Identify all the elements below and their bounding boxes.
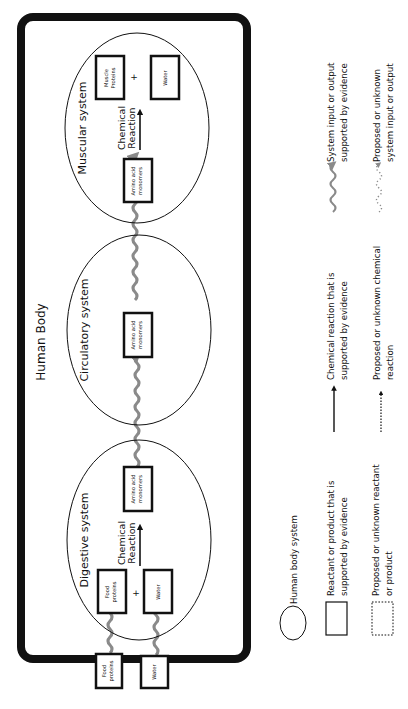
human-body-title: Human Body	[34, 303, 48, 380]
legend-dashed-arrow-label-1: Proposed or unknown chemical	[372, 246, 382, 380]
digestive-system: Digestive system Amino acid monomers Che…	[67, 440, 211, 640]
legend-solid-box-label-2: supported by evidence	[339, 497, 349, 596]
dig-food-label-1: Food	[104, 586, 110, 598]
muscle-amino-label-2: monomers	[137, 167, 143, 195]
dig-amino-label-1: Amino acid	[130, 475, 136, 504]
circulatory-system-label: Circulatory system	[78, 278, 91, 381]
muscle-reaction-label-2: Reaction	[126, 107, 137, 148]
legend-dotted-wavy-arrow-label-1: Proposed or unknown	[372, 69, 382, 162]
legend-solid-box-label-1: Reactant or product that is	[326, 480, 336, 596]
dig-plus-sign: +	[132, 588, 140, 598]
legend-solid-box-icon	[326, 602, 347, 635]
muscle-proteins-label-2: Proteins	[110, 67, 116, 88]
diagram-canvas: Human Body Muscular system Muscle Protei…	[0, 0, 408, 709]
dig-water-label: Water	[155, 583, 161, 599]
legend-wavy-arrow-label-2: supported by evidence	[339, 63, 349, 162]
plus-sign: +	[130, 72, 138, 82]
legend-dotted-wavy-arrow-icon	[377, 164, 382, 212]
ext-food-label-1: Food	[101, 665, 107, 677]
legend-wavy-arrow-label-1: System input or output	[326, 62, 336, 162]
ext-food-label-2: proteins	[108, 660, 115, 681]
dig-food-label-2: proteins	[111, 581, 118, 602]
muscular-system-label: Muscular system	[76, 82, 89, 175]
legend-wavy-arrow-icon	[331, 164, 336, 212]
wavy-dig-to-circ	[135, 355, 139, 467]
dig-amino-label-2: monomers	[137, 475, 143, 503]
legend-dotted-wavy-arrow-label-2: system input or output	[385, 63, 395, 162]
dig-reaction-label-2: Reaction	[126, 522, 137, 563]
legend: Human body system Reactant or product th…	[280, 62, 395, 640]
legend-dashed-box-label-1: Proposed or unknown reactant	[371, 464, 381, 596]
muscle-amino-label-1: Amino acid	[130, 167, 136, 196]
muscular-system: Muscular system Muscle Proteins + Water …	[65, 33, 209, 223]
digestive-system-label: Digestive system	[78, 493, 91, 588]
legend-dashed-box-icon	[372, 602, 393, 635]
muscle-water-label: Water	[162, 69, 168, 85]
circ-amino-label-2: monomers	[137, 321, 143, 349]
legend-dashed-box-label-2: or product	[384, 551, 394, 596]
legend-dashed-arrow-label-2: reaction	[385, 345, 395, 380]
legend-ellipse-icon	[280, 606, 306, 640]
ext-water-label: Water	[151, 663, 157, 679]
legend-solid-arrow-label-2: supported by evidence	[339, 281, 349, 380]
legend-ellipse-label: Human body system	[289, 515, 299, 604]
legend-solid-arrow-label-1: Chemical reaction that is	[326, 272, 336, 380]
muscle-proteins-label: Muscle	[103, 69, 109, 87]
circ-amino-label-1: Amino acid	[130, 321, 136, 350]
